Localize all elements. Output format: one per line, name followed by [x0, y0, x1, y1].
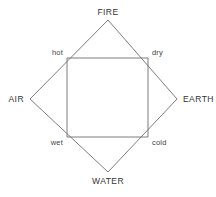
quality-label-wet: wet	[51, 139, 63, 147]
quality-label-dry: dry	[152, 49, 163, 57]
element-label-water: WATER	[92, 177, 124, 186]
element-label-fire: FIRE	[97, 8, 118, 17]
four-elements-diagram: FIRE AIR EARTH WATER hot dry wet cold	[0, 0, 216, 197]
qualities-square-shape	[67, 58, 148, 137]
element-label-earth: EARTH	[183, 95, 214, 104]
element-label-air: AIR	[8, 95, 24, 104]
quality-label-cold: cold	[152, 139, 167, 147]
quality-label-hot: hot	[52, 49, 63, 57]
elements-diamond-shape	[30, 20, 177, 172]
